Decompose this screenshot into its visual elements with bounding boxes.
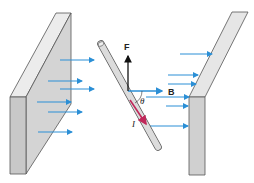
force-label: F [124,42,130,52]
right-pole [189,12,248,175]
angle-label: θ [140,96,145,106]
magnetic-force-diagram: F B θ I [0,0,254,183]
current-label: I [131,119,136,129]
field-label: B [168,87,175,97]
left-pole [10,13,71,174]
